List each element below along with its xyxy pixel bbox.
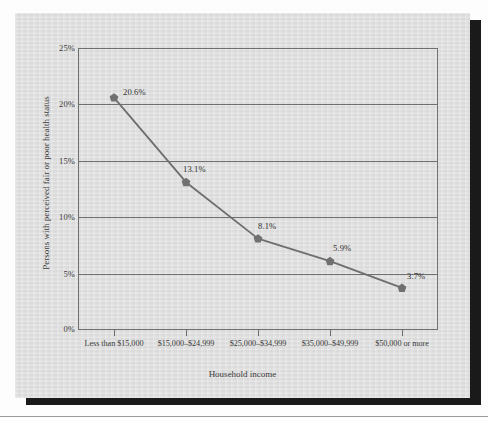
xtick-3 bbox=[330, 330, 331, 336]
xtick-4 bbox=[402, 330, 403, 336]
x-axis-title: Household income bbox=[15, 369, 470, 379]
xtick-2 bbox=[258, 330, 259, 336]
y-axis-title: Persons with perceived fair or poor heal… bbox=[41, 53, 51, 313]
ytick-label-20: 20% bbox=[29, 99, 75, 109]
figure-page: 25% 20% 15% 10% 5% 0% Less than $15,000 … bbox=[0, 0, 488, 424]
line-chart: 25% 20% 15% 10% 5% 0% Less than $15,000 … bbox=[15, 13, 470, 398]
gridline-20 bbox=[78, 104, 438, 105]
ytick-label-10: 10% bbox=[29, 212, 75, 222]
xtick-0 bbox=[114, 330, 115, 336]
data-label-4: 3.7% bbox=[407, 271, 425, 281]
data-label-0: 20.6% bbox=[123, 87, 146, 97]
gridline-15 bbox=[78, 161, 438, 162]
data-label-2: 8.1% bbox=[258, 221, 276, 231]
ytick-label-0: 0% bbox=[29, 324, 75, 334]
xtick-1 bbox=[186, 330, 187, 336]
ytick-label-25: 25% bbox=[29, 43, 75, 53]
ytick-label-15: 15% bbox=[29, 156, 75, 166]
ytick-label-5: 5% bbox=[29, 269, 75, 279]
page-bottom-rule bbox=[0, 416, 488, 417]
xtick-label-4: $50,000 or more bbox=[348, 339, 456, 348]
data-label-3: 5.9% bbox=[333, 243, 351, 253]
gridline-10 bbox=[78, 217, 438, 218]
figure-panel: 25% 20% 15% 10% 5% 0% Less than $15,000 … bbox=[15, 13, 470, 398]
data-label-1: 13.1% bbox=[183, 164, 206, 174]
gridline-5 bbox=[78, 274, 438, 275]
